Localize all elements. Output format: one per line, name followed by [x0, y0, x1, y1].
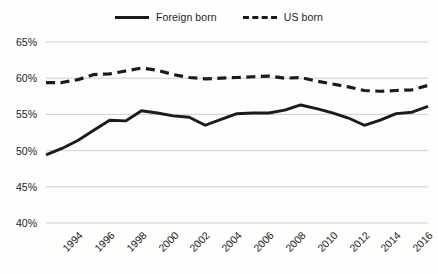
x-axis-tick-label: 1996 [92, 229, 117, 254]
x-axis-tick-label: 2008 [283, 229, 308, 254]
x-axis-tick-label: 1994 [60, 229, 85, 254]
line-chart: Foreign born US born 65%60%55%50%45%40% … [0, 0, 438, 274]
x-axis-tick-label: 2006 [251, 229, 276, 254]
x-axis-tick-label: 2010 [314, 229, 339, 254]
x-axis-tick-label: 2014 [378, 229, 403, 254]
x-axis-tick-label: 2000 [155, 229, 180, 254]
x-axis-tick-label: 2016 [410, 229, 435, 254]
x-axis-tick-label: 1998 [123, 229, 148, 254]
x-axis-tick-label: 2012 [346, 229, 371, 254]
x-axis-tick-label: 2002 [187, 229, 212, 254]
x-axis-tick-label: 2004 [219, 229, 244, 254]
x-axis: 1994199619982000200220042006200820102012… [0, 0, 438, 274]
